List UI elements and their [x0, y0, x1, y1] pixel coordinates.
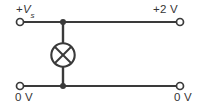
- label-supply-symbol: V: [23, 3, 31, 15]
- circuit-diagram: +Vs +2 V 0 V 0 V: [0, 0, 201, 111]
- terminal-top-right-node[interactable]: [177, 19, 184, 26]
- label-supply-prefix: +: [16, 3, 23, 15]
- terminal-bottom-right-node[interactable]: [177, 83, 184, 90]
- junction-bottom-dot: [60, 83, 66, 89]
- label-supply-plus-two-volts: +2 V: [153, 3, 178, 15]
- label-ground-left: 0 V: [15, 91, 33, 103]
- lamp-icon: [51, 43, 74, 66]
- label-supply-subscript: s: [31, 11, 35, 20]
- label-ground-right: 0 V: [174, 91, 192, 103]
- junction-top-dot: [60, 19, 66, 25]
- terminal-bottom-left-node[interactable]: [17, 83, 24, 90]
- label-supply-voltage-source: +Vs: [16, 3, 35, 20]
